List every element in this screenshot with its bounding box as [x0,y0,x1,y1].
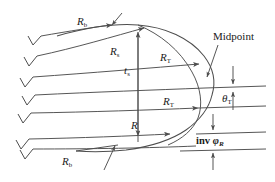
label-rs: Rs [110,46,119,57]
label-ts: ts [124,65,130,76]
left-tick-marks [16,36,41,159]
reference-line-inv-top [196,132,266,134]
label-theta-t-sub: T [228,98,232,105]
gear-tooth-geometry-figure: Rb Rs ts RT RT Midpoint θT R inv φR Rb [0,0,275,182]
label-theta-t: θT [222,93,232,104]
label-rb-bottom-base: R [62,155,69,167]
label-rb-bottom: Rb [62,156,72,167]
label-rt-upper-sub: T [167,57,171,64]
label-rb-top: Rb [77,16,87,27]
label-rt-lower-sub: T [170,101,174,108]
label-phi-symbol: φ [213,135,219,146]
label-rt-lower-base: R [163,95,170,107]
label-r-pitch: R [131,120,138,131]
radial-lines [29,25,205,149]
radial-line-mid [35,88,205,95]
radial-line-rt-upper [33,64,199,77]
tick-mark [20,149,33,159]
rb-top-leader-arrow [112,13,122,25]
tick-mark [22,95,35,105]
label-r-pitch-base: R [131,119,138,131]
label-midpoint-text: Midpoint [213,30,254,42]
label-inv-prefix: inv [196,135,213,146]
label-midpoint: Midpoint [213,31,254,42]
tick-mark [24,56,37,66]
radial-line-rt-lower [31,108,198,113]
radial-line-rs [37,28,144,56]
label-rt-lower: RT [163,96,174,107]
label-phi-sub: R [219,140,224,148]
rb-bottom-leader-arrow [104,146,115,170]
label-theta-t-base: θ [222,92,227,104]
label-inv-phi-r: inv φR [196,136,224,147]
figure-drawing-canvas [0,0,275,182]
label-rt-upper: RT [160,52,171,63]
label-rb-top-sub: b [84,21,87,28]
label-rs-base: R [110,45,117,57]
label-ts-sub: s [127,70,130,77]
tooth-profile-outline [57,25,214,152]
tick-mark [18,113,31,123]
tick-mark [20,77,33,87]
reference-line-inv-bottom [180,149,266,151]
label-rt-upper-base: R [160,51,167,63]
radial-line-r [29,134,170,139]
label-rs-sub: s [117,51,120,58]
tick-mark [28,36,41,45]
label-rb-top-base: R [77,15,84,27]
tick-mark [16,139,29,149]
label-rb-bottom-sub: b [69,161,72,168]
